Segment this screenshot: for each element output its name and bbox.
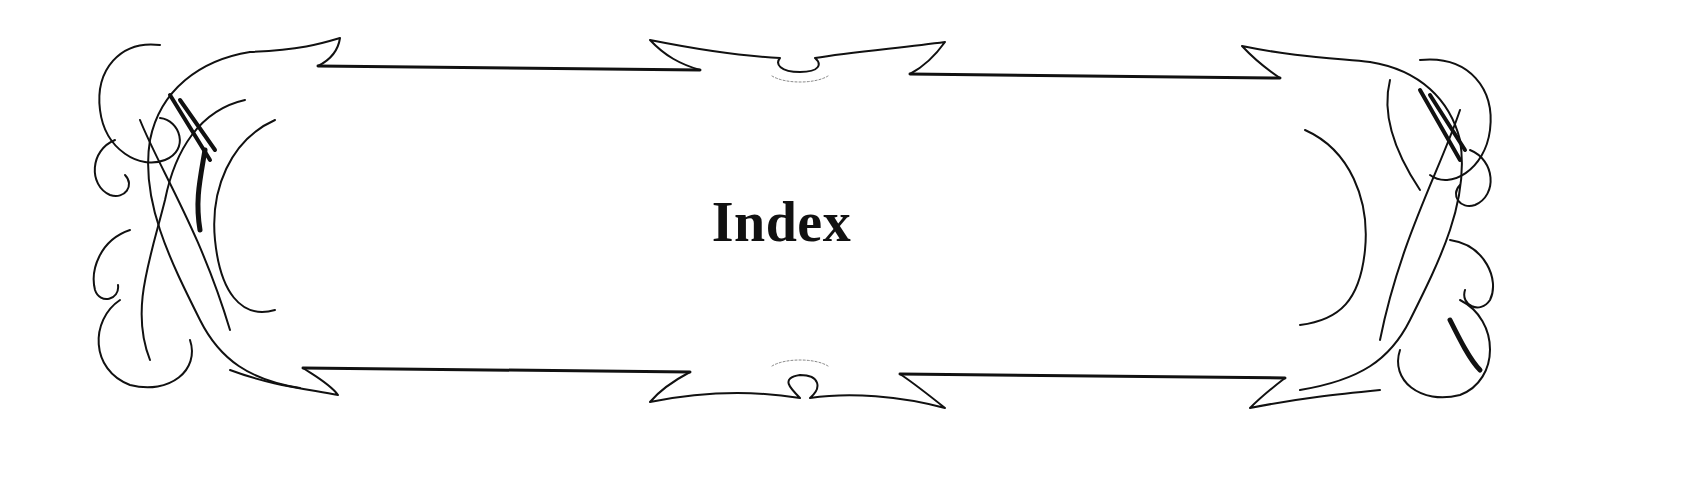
- page-title: Index: [0, 190, 1633, 254]
- bottom-border: [230, 360, 1380, 408]
- top-border: [250, 38, 1370, 82]
